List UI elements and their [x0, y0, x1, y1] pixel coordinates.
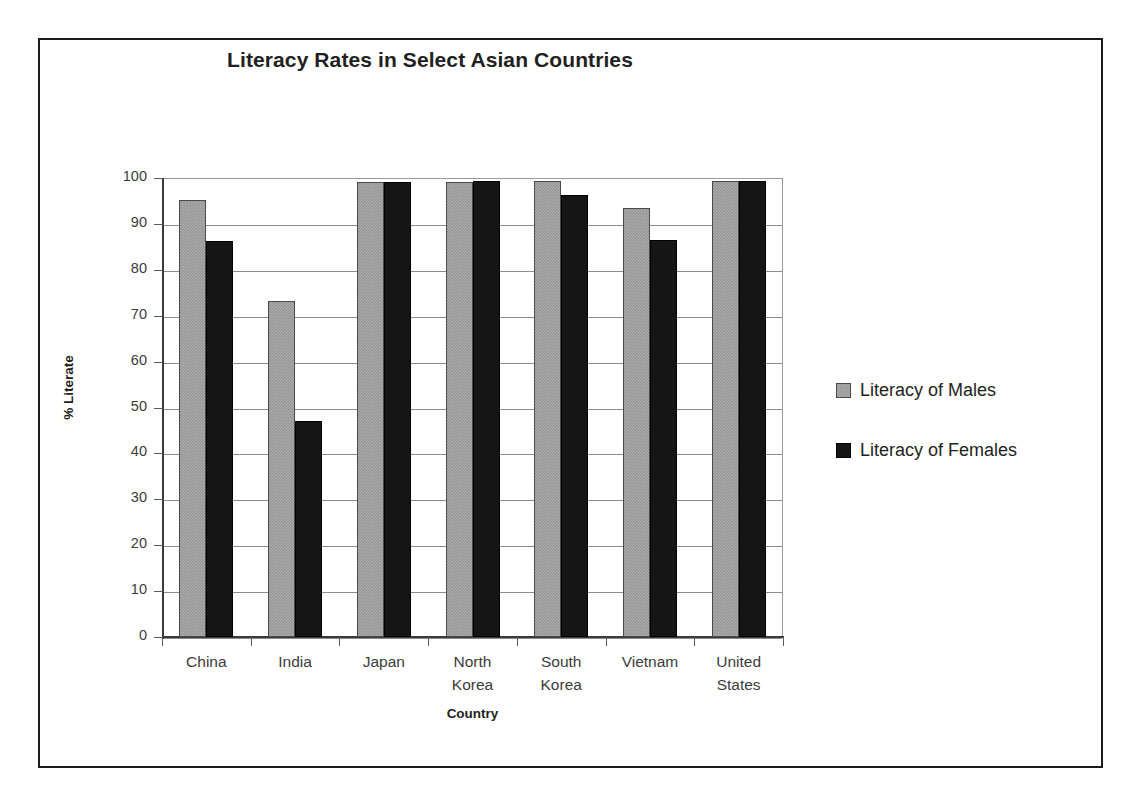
bar-north-korea-females	[473, 181, 500, 637]
y-axis-tick	[154, 453, 163, 454]
y-axis-tick-label: 60	[95, 352, 147, 368]
y-axis-tick	[154, 224, 163, 225]
bar-south-korea-males	[534, 181, 561, 637]
legend-swatch-females-icon	[836, 443, 851, 458]
y-axis-tick-label: 0	[95, 627, 147, 643]
legend-label-females: Literacy of Females	[860, 440, 1017, 461]
bar-vietnam-males	[623, 208, 650, 637]
legend-item-males[interactable]: Literacy of Males	[836, 378, 1086, 402]
bar-south-korea-females	[561, 195, 588, 637]
bar-japan-males	[357, 182, 384, 637]
x-axis-tick	[251, 637, 252, 646]
gridline	[162, 638, 782, 639]
bar-china-males	[179, 200, 206, 637]
y-axis-tick-label: 70	[95, 306, 147, 322]
y-axis-tick-label: 50	[95, 398, 147, 414]
x-axis-tick	[339, 637, 340, 646]
y-axis-title: % Literate	[61, 318, 76, 458]
y-axis-tick	[154, 545, 163, 546]
bar-united-states-females	[739, 181, 766, 637]
y-axis-tick	[154, 499, 163, 500]
bar-china-females	[206, 241, 233, 637]
y-axis-tick-label: 90	[95, 214, 147, 230]
x-axis-title: Country	[162, 706, 783, 721]
x-axis-tick	[606, 637, 607, 646]
x-axis-tick	[162, 637, 163, 646]
bar-india-females	[295, 421, 322, 637]
legend-swatch-males-icon	[836, 383, 851, 398]
x-axis-tick	[517, 637, 518, 646]
y-axis-tick	[154, 408, 163, 409]
x-axis-tick	[783, 637, 784, 646]
y-axis-tick-label: 40	[95, 443, 147, 459]
y-axis-tick	[154, 362, 163, 363]
y-axis-tick-label: 20	[95, 535, 147, 551]
y-axis-tick	[154, 316, 163, 317]
chart-legend: Literacy of Males Literacy of Females	[836, 378, 1086, 498]
chart-title: Literacy Rates in Select Asian Countries	[0, 48, 860, 72]
y-axis-tick	[154, 178, 163, 179]
bar-japan-females	[384, 182, 411, 637]
bar-north-korea-males	[446, 182, 473, 637]
y-axis-tick-label: 80	[95, 260, 147, 276]
y-axis-tick-label: 100	[95, 168, 147, 184]
bar-united-states-males	[712, 181, 739, 637]
y-axis-tick	[154, 270, 163, 271]
y-axis-tick-label: 10	[95, 581, 147, 597]
x-axis-label-united-states: UnitedStates	[684, 650, 794, 696]
y-axis-tick-label: 30	[95, 489, 147, 505]
legend-item-females[interactable]: Literacy of Females	[836, 438, 1086, 462]
legend-label-males: Literacy of Males	[860, 380, 996, 401]
bar-india-males	[268, 301, 295, 637]
x-axis-tick	[694, 637, 695, 646]
x-axis-tick	[428, 637, 429, 646]
y-axis-tick	[154, 591, 163, 592]
bar-vietnam-females	[650, 240, 677, 637]
y-axis-line	[162, 178, 164, 639]
